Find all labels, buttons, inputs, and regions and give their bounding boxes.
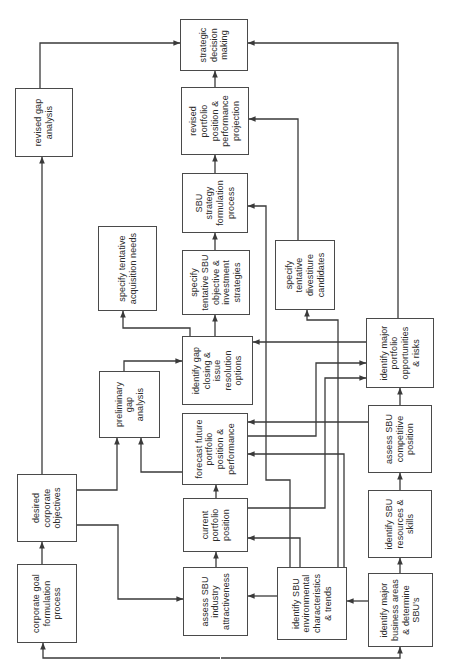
box-label-line: specify tentative <box>117 235 128 301</box>
box-label-line: assess SBU <box>200 576 211 626</box>
box-label-line: portfolio <box>210 509 221 542</box>
rga-box: revised gapanalysis <box>15 88 73 157</box>
box-label-line: strategic <box>198 28 209 63</box>
box-label-line: revised <box>188 106 199 136</box>
box-label-line: gap <box>124 397 135 412</box>
arrow-dco-to-asia <box>77 525 183 599</box>
impo-box: identify majorportfolioopportunities& ri… <box>366 318 434 388</box>
box-label-line: skills <box>405 514 416 534</box>
box-label-line: investment <box>221 260 232 305</box>
box-label-line: current <box>200 511 211 540</box>
box-label-line: divestiture <box>305 254 316 296</box>
arrow-igc-to-stan <box>123 311 190 336</box>
box-label-line: resolution <box>223 350 234 390</box>
arrow-feedback-to-cgf <box>43 643 220 658</box>
box-label-line: objective & <box>211 260 222 305</box>
stan-box: specify tentativeacquisition needs <box>98 226 157 311</box>
box-label-line: projection <box>231 101 242 141</box>
imba-box: identify majorbusiness areas& determineS… <box>368 573 433 647</box>
dco-box: desiredcorporateobjectives <box>17 474 77 542</box>
box-label-line: identify SBU <box>384 499 395 550</box>
box-label-line: preliminary <box>114 382 125 427</box>
scanned-page: corporate goalformulationprocessdesiredc… <box>0 0 450 667</box>
box-label-line: industry <box>210 585 221 617</box>
arrow-isec-to-cpp <box>248 538 300 567</box>
box-label-line: identify gap <box>191 347 202 394</box>
box-label-line: process <box>52 587 63 619</box>
box-label-line: position & <box>215 429 226 470</box>
box-label-line: acquisition needs <box>128 233 139 304</box>
box-label-line: identify major <box>379 326 390 381</box>
box-label-line: tentative <box>294 258 305 293</box>
box-label-line: analysis <box>44 106 55 139</box>
box-label-line: corporate <box>42 489 53 528</box>
arrow-pga-to-igc <box>124 361 182 371</box>
isec-box: identify SBUenvironmentalcharacteristics… <box>277 567 347 640</box>
box-label-line: formulation <box>215 180 226 226</box>
box-label-line: attractiveness <box>221 573 232 630</box>
arrow-isec-to-ffp <box>248 454 344 567</box>
box-label-line: identify major <box>379 583 390 638</box>
box-label-line: process <box>226 187 237 219</box>
box-label-line: decision <box>209 28 220 62</box>
ffp-box: forecast futureportfolioposition &perfor… <box>182 413 248 485</box>
box-label-line: revised gap <box>33 99 44 147</box>
sdm-box: strategicdecisionmaking <box>180 19 248 71</box>
ssf-box: SBUstrategyformulationprocess <box>182 173 248 233</box>
arrow-ffp-to-pga <box>141 438 182 472</box>
flowchart-stage: corporate goalformulationprocessdesiredc… <box>0 0 450 667</box>
box-label-line: strategies <box>232 262 243 302</box>
rpp-box: revisedportfolioposition &performancepro… <box>181 87 249 155</box>
box-label-line: issue <box>212 360 223 382</box>
box-label-line: options <box>233 356 244 386</box>
igc-box: identify gapclosing &issueresolutionopti… <box>182 336 253 405</box>
box-label-line: portfolio <box>204 433 215 466</box>
box-label-line: position <box>221 509 232 541</box>
box-label-line: characteristics <box>312 574 323 633</box>
box-label-line: portfolio <box>389 337 400 370</box>
isrs-box: identify SBUresources &skills <box>368 490 432 558</box>
box-label-line: & risks <box>411 339 422 367</box>
box-label-line: position <box>405 423 416 455</box>
box-label-line: closing & <box>202 352 213 389</box>
box-label-line: objectives <box>52 487 63 528</box>
box-label-line: analysis <box>135 388 146 421</box>
pga-box: preliminarygapanalysis <box>99 371 160 438</box>
box-label-line: resources & <box>395 499 406 548</box>
box-label-line: opportunities <box>400 327 411 380</box>
ascp-box: assess SBUcompetitiveposition <box>368 405 432 473</box>
stdc-box: specifytentativedivestiturecandidates <box>275 240 335 310</box>
box-label-line: environmental <box>301 575 312 633</box>
stso-box: specifytentative SBUobjective &investmen… <box>182 250 250 315</box>
box-label-line: tentative SBU <box>200 254 211 310</box>
box-label-line: position & <box>210 101 221 142</box>
box-label-line: competitive <box>395 416 406 463</box>
box-label-line: performance <box>220 95 231 147</box>
cpp-box: currentportfolioposition <box>183 498 248 552</box>
box-label-line: specify <box>189 268 200 297</box>
box-label-line: strategy <box>204 187 215 220</box>
box-label-line: portfolio <box>199 105 210 138</box>
cgf-box: corporate goalformulationprocess <box>17 564 77 643</box>
box-label-line: & determine <box>401 585 412 635</box>
box-label-line: performance <box>226 423 237 475</box>
box-label-line: SBU's <box>411 597 422 622</box>
box-label-line: corporate goal <box>31 574 42 633</box>
box-label-line: making <box>219 30 230 60</box>
box-label-line: formulation <box>42 581 53 627</box>
arrow-isec-to-stdc <box>307 310 338 567</box>
arrow-feedback-to-imba <box>221 647 400 658</box>
box-label-line: business areas <box>390 579 401 641</box>
box-label-line: identify SBU <box>291 578 302 629</box>
box-label-line: desired <box>31 493 42 523</box>
box-label-line: specify <box>284 261 295 290</box>
box-label-line: & trends <box>323 586 334 620</box>
box-label-line: candidates <box>316 253 327 298</box>
box-label-line: assess SBU <box>384 414 395 464</box>
box-label-line: SBU <box>194 194 205 213</box>
box-label-line: forecast future <box>194 419 205 478</box>
arrow-rga-to-sdm <box>40 43 180 88</box>
asia-box: assess SBUindustryattractiveness <box>183 567 248 636</box>
arrow-stdc-to-rpp <box>249 119 298 240</box>
arrow-dco-to-pga <box>77 438 117 490</box>
